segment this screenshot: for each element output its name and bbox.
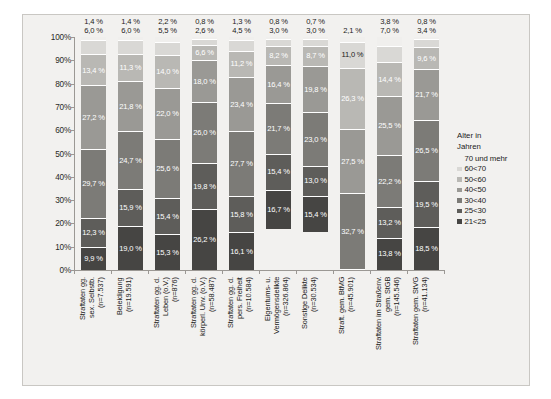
bar-segment[interactable]: 15,4 % [155,198,181,234]
bar-segment[interactable]: 8,2 % [266,46,292,65]
bar-column[interactable]: 14,0 %22,0 %25,6 %15,4 %15,3 %2,2 %5,5 % [155,37,181,269]
stacked-bar[interactable]: 14,4 %25,5 %22,2 %13,2 %13,8 % [377,37,403,269]
bar-segment[interactable]: 18,5 % [414,227,440,270]
bar-segment[interactable]: 26,2 % [192,209,218,270]
legend-label: 70 und mehr [465,154,508,163]
bar-segment[interactable]: 16,4 % [266,65,292,103]
bar-segment[interactable] [118,40,144,54]
bar-segment-label: 25,5 % [378,122,400,130]
bar-segment[interactable]: 13,8 % [377,238,403,270]
legend-item[interactable]: 40<50 [457,185,527,196]
bar-segment[interactable]: 21,8 % [118,81,144,132]
bar-segment-label: 22,2 % [378,178,400,186]
bar-segment[interactable]: 14,0 % [155,55,181,88]
y-axis-tick-mark [71,223,75,224]
bar-segment[interactable]: 26,3 % [340,68,366,129]
bar-segment[interactable]: 11,2 % [229,51,255,77]
x-axis-category-label: Straftaten gg. sex. Selbstb. (n=7.537) [78,277,110,385]
stacked-bar[interactable]: 8,2 %16,4 %21,7 %15,4 %16,7 % [266,37,292,269]
bar-segment[interactable]: 27,2 % [81,85,107,148]
bar-segment[interactable]: 13,2 % [377,207,403,238]
bar-segment[interactable]: 22,2 % [377,155,403,207]
y-axis-tick-label: 60% [55,126,71,135]
bar-segment[interactable]: 25,6 % [155,139,181,199]
legend-item[interactable]: 25<30 [457,206,527,217]
bar-segment[interactable]: 12,3 % [81,218,107,247]
bar-segment[interactable]: 19,8 % [192,163,218,209]
stacked-bar[interactable]: 14,0 %22,0 %25,6 %15,4 %15,3 % [155,37,181,269]
bar-column[interactable]: 11,0 %26,3 %27,5 %32,7 %2,1 % [340,37,366,269]
bar-segment[interactable]: 13,4 % [81,54,107,85]
stacked-bar[interactable]: 6,6 %18,0 %26,0 %19,8 %26,2 % [192,37,218,269]
bar-segment[interactable]: 9,9 % [81,247,107,270]
bar-segment[interactable]: 6,6 % [192,45,218,60]
bar-segment[interactable]: 27,7 % [229,131,255,196]
bar-segment[interactable]: 9,6 % [414,47,440,69]
stacked-bar[interactable]: 11,0 %26,3 %27,5 %32,7 % [340,37,366,269]
bar-segment[interactable] [266,39,292,46]
bar-column[interactable]: 9,6 %21,7 %26,5 %19,5 %18,5 %0,8 %3,4 % [414,37,440,269]
bar-segment[interactable]: 23,0 % [303,112,329,166]
stacked-bar[interactable]: 9,6 %21,7 %26,5 %19,5 %18,5 % [414,37,440,269]
bar-segment[interactable]: 32,7 % [340,193,366,269]
bar-segment[interactable] [229,40,255,50]
bar-column[interactable]: 13,4 %27,2 %29,7 %12,3 %9,9 %1,4 %6,0 % [81,37,107,269]
bar-segment[interactable] [340,269,366,270]
bar-column[interactable]: 8,7 %19,8 %23,0 %13,0 %15,4 %0,7 %3,0 % [303,37,329,269]
legend-item[interactable]: 30<40 [457,195,527,206]
bar-column[interactable]: 11,2 %23,4 %27,7 %15,8 %16,1 %1,3 %4,5 % [229,37,255,269]
bar-segment[interactable]: 23,4 % [229,77,255,132]
bar-segment[interactable]: 22,0 % [155,88,181,139]
legend-item[interactable]: 50<60 [457,174,527,185]
bar-segment[interactable]: 16,7 % [266,190,292,229]
bar-segment[interactable]: 19,5 % [414,181,440,226]
bar-segment[interactable]: 26,0 % [192,102,218,163]
bar-segment-label: 21,7 % [267,125,289,133]
bar-segment[interactable]: 19,0 % [118,226,144,270]
bar-segment[interactable]: 26,5 % [414,120,440,182]
bar-segment[interactable]: 19,8 % [303,66,329,112]
legend-item[interactable]: 21<25 [457,216,527,227]
bar-segment[interactable]: 16,1 % [229,232,255,270]
bar-segment[interactable]: 29,7 % [81,149,107,218]
bar-segment[interactable]: 15,9 % [118,189,144,226]
bar-segment[interactable] [81,40,107,54]
bar-column[interactable]: 8,2 %16,4 %21,7 %15,4 %16,7 %0,8 %3,0 % [266,37,292,269]
bar-column[interactable]: 6,6 %18,0 %26,0 %19,8 %26,2 %0,8 %2,6 % [192,37,218,269]
bar-segment[interactable]: 24,7 % [118,131,144,189]
stacked-bar[interactable]: 13,4 %27,2 %29,7 %12,3 %9,9 % [81,37,107,269]
bar-segment[interactable] [303,39,329,46]
stacked-bar[interactable]: 11,2 %23,4 %27,7 %15,8 %16,1 % [229,37,255,269]
bar-column[interactable]: 14,4 %25,5 %22,2 %13,2 %13,8 %3,8 %7,0 % [377,37,403,269]
legend-item[interactable]: 70 und mehr [457,153,527,164]
x-axis-tick-mark [148,270,149,274]
bar-segment[interactable]: 13,0 % [303,166,329,196]
bar-segment[interactable]: 15,4 % [303,196,329,232]
bar-segment-label: 23,4 % [230,101,252,109]
legend-item[interactable]: 60<70 [457,164,527,175]
bar-segment[interactable]: 15,3 % [155,234,181,270]
bar-segment[interactable] [377,37,403,46]
bar-segment-label: 15,4 % [304,211,326,219]
bar-segment[interactable]: 18,0 % [192,60,218,102]
bar-segment[interactable]: 21,7 % [414,69,440,120]
bar-segment[interactable]: 15,4 % [266,154,292,190]
bar-segment[interactable]: 27,5 % [340,129,366,193]
bar-segment[interactable] [377,46,403,62]
bar-segment[interactable]: 21,7 % [266,103,292,154]
stacked-bar[interactable]: 11,3 %21,8 %24,7 %15,9 %19,0 % [118,37,144,269]
bar-segment[interactable] [155,42,181,55]
bar-segment[interactable]: 8,7 % [303,46,329,66]
bar-segment-label: 12,3 % [82,229,104,237]
bar-segment[interactable]: 15,8 % [229,196,255,233]
bar-segment[interactable] [414,39,440,47]
stacked-bar[interactable]: 8,7 %19,8 %23,0 %13,0 %15,4 % [303,37,329,269]
x-axis-category-label: Straftaten gg. d. Leben (o.V.) (n=876) [152,277,184,385]
y-axis-tick-label: 90% [55,56,71,65]
bar-column[interactable]: 11,3 %21,8 %24,7 %15,9 %19,0 %1,4 %6,0 % [118,37,144,269]
bar-outside-labels: 0,8 %3,4 % [408,18,446,35]
bar-segment[interactable]: 25,5 % [377,96,403,155]
bar-segment[interactable]: 11,0 % [340,42,366,68]
bar-segment[interactable]: 11,3 % [118,54,144,80]
bar-segment[interactable]: 14,4 % [377,62,403,96]
